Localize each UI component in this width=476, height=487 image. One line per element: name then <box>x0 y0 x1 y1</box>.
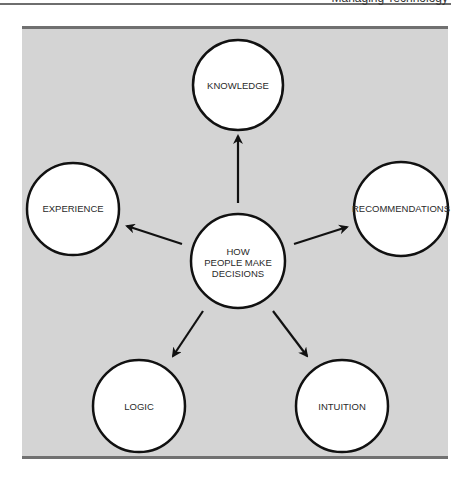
center-line-2: PEOPLE MAKE <box>204 257 272 268</box>
node-experience: EXPERIENCE <box>27 163 119 255</box>
node-center: HOW PEOPLE MAKE DECISIONS <box>191 214 285 308</box>
arrow-to-logic <box>173 311 203 356</box>
node-label: RECOMMENDATIONS <box>352 203 450 214</box>
node-label: INTUITION <box>318 401 366 412</box>
node-intuition: INTUITION <box>296 360 388 452</box>
decision-diagram: KNOWLEDGE EXPERIENCE RECOMMENDATIONS HOW… <box>0 0 476 487</box>
node-label: KNOWLEDGE <box>207 80 269 91</box>
center-line-3: DECISIONS <box>212 268 264 279</box>
arrow-to-intuition <box>273 311 307 356</box>
arrow-to-recommendations <box>294 227 347 244</box>
node-label: LOGIC <box>124 401 154 412</box>
center-line-1: HOW <box>226 246 249 257</box>
arrow-to-experience <box>127 226 182 244</box>
node-label: EXPERIENCE <box>42 203 103 214</box>
node-logic: LOGIC <box>93 360 185 452</box>
node-recommendations: RECOMMENDATIONS <box>352 162 450 256</box>
node-knowledge: KNOWLEDGE <box>193 40 283 130</box>
